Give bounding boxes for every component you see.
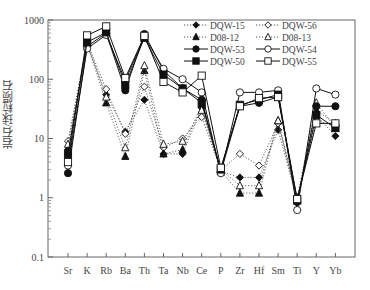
square-marker-icon	[236, 103, 243, 110]
square-marker-icon	[198, 99, 205, 106]
square-marker-icon	[313, 120, 320, 127]
circle-marker-icon	[332, 103, 339, 110]
square-marker-icon	[179, 89, 186, 96]
legend-item-dqw-56: DQW-56	[256, 21, 317, 31]
x-tick-label-ta: Ta	[159, 265, 169, 276]
square-marker-icon	[84, 32, 91, 39]
legend-label: DQW-54	[282, 45, 317, 55]
square-marker-icon	[64, 150, 71, 157]
diamond-marker-icon	[332, 132, 339, 139]
circle-marker-icon	[179, 76, 186, 83]
square-marker-icon	[64, 158, 71, 165]
diamond-marker-icon	[255, 174, 262, 181]
square-marker-icon	[313, 111, 320, 118]
square-marker-icon	[294, 195, 301, 202]
x-tick-label-ce: Ce	[196, 265, 208, 276]
legend-item-dqw-55: DQW-55	[256, 57, 317, 67]
legend-label: DQW-53	[210, 45, 245, 55]
x-tick-label-ti: Ti	[293, 265, 302, 276]
triangle-marker-icon	[160, 140, 167, 147]
triangle-marker-icon	[141, 61, 148, 68]
x-tick-label-k: K	[83, 265, 91, 276]
square-marker-icon	[160, 78, 167, 85]
square-marker-icon	[198, 72, 205, 79]
legend-item-d08-13: D08-13	[256, 33, 311, 43]
legend-label: DQW-50	[210, 57, 245, 67]
square-marker-icon	[103, 23, 110, 30]
diamond-marker-icon	[236, 174, 243, 181]
diamond-marker-icon	[103, 86, 110, 93]
square-marker-icon	[265, 58, 271, 64]
diamond-marker-icon	[141, 83, 148, 90]
circle-marker-icon	[64, 170, 71, 177]
legend-item-dqw-50: DQW-50	[184, 57, 245, 67]
x-tick-label-sm: Sm	[271, 265, 285, 276]
square-marker-icon	[122, 81, 129, 88]
x-tick-label-sr: Sr	[64, 265, 74, 276]
triangle-marker-icon	[255, 189, 262, 196]
square-marker-icon	[84, 39, 91, 46]
x-tick-label-zr: Zr	[235, 265, 245, 276]
legend-label: D08-12	[210, 33, 239, 43]
circle-marker-icon	[294, 206, 301, 213]
x-tick-label-rb: Rb	[100, 265, 112, 276]
diamond-marker-icon	[236, 150, 243, 157]
legend-item-dqw-54: DQW-54	[256, 45, 317, 55]
legend-item-dqw-15: DQW-15	[184, 21, 245, 31]
series-line	[68, 45, 335, 201]
x-tick-label-nb: Nb	[176, 265, 188, 276]
legend-label: D08-13	[282, 33, 311, 43]
square-marker-icon	[122, 74, 129, 81]
triangle-marker-icon	[179, 145, 186, 152]
triangle-marker-icon	[236, 182, 243, 189]
square-marker-icon	[141, 32, 148, 39]
square-marker-icon	[217, 164, 224, 171]
y-tick-label: 100	[29, 74, 44, 85]
square-marker-icon	[332, 120, 339, 127]
legend: DQW-15DQW-56D08-12D08-13DQW-53DQW-54DQW-…	[184, 21, 317, 67]
x-tick-label-p: P	[218, 265, 224, 276]
diamond-marker-icon	[141, 96, 148, 103]
x-tick-label-ba: Ba	[120, 265, 132, 276]
diamond-marker-icon	[193, 22, 199, 28]
legend-label: DQW-15	[210, 21, 245, 31]
y-tick-label: 1000	[24, 15, 44, 26]
legend-item-dqw-53: DQW-53	[184, 45, 245, 55]
legend-label: DQW-56	[282, 21, 317, 31]
circle-marker-icon	[236, 89, 243, 96]
x-tick-label-y: Y	[313, 265, 320, 276]
x-tick-label-yb: Yb	[329, 265, 341, 276]
triangle-marker-icon	[275, 117, 282, 124]
circle-marker-icon	[313, 85, 320, 92]
x-tick-label-th: Th	[139, 265, 150, 276]
square-marker-icon	[255, 95, 262, 102]
circle-marker-icon	[265, 46, 271, 52]
circle-marker-icon	[332, 91, 339, 98]
y-tick-label: 1	[39, 192, 44, 203]
legend-label: DQW-55	[282, 57, 317, 67]
series-line	[68, 44, 335, 201]
x-tick-label-hf: Hf	[254, 265, 265, 276]
circle-marker-icon	[193, 46, 199, 52]
diamond-marker-icon	[255, 162, 262, 169]
y-tick-label: 10	[34, 133, 44, 144]
square-marker-icon	[275, 93, 282, 100]
legend-item-d08-12: D08-12	[184, 33, 239, 43]
diamond-marker-icon	[265, 22, 271, 28]
triangle-marker-icon	[122, 152, 129, 159]
spider-diagram: 0.11101001000SrKRbBaThTaNbCePZrHfSmTiYYb…	[0, 0, 370, 290]
triangle-marker-icon	[236, 189, 243, 196]
y-tick-label: 0.1	[32, 252, 45, 263]
square-marker-icon	[193, 58, 199, 64]
